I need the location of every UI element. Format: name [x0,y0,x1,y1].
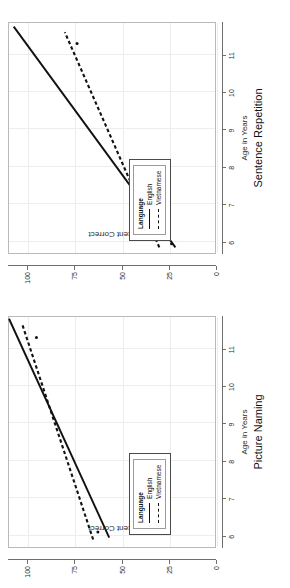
x-tick [222,536,226,537]
legend-key-solid-icon-1 [149,503,150,523]
figure-root: 678910110255075100 Age in Years Percent … [0,0,290,588]
legend-item-english-0: English [146,171,153,229]
series-layer-1 [9,315,217,547]
x-tick [222,461,226,462]
plot-frame-0 [8,22,216,254]
legend-key-dashed-icon-0 [158,209,159,229]
series-line-vietnamese [22,324,93,539]
x-tick-label: 10 [228,383,235,391]
gridline-horizontal [217,317,218,547]
x-tick-label: 6 [228,241,235,245]
legend-label-english-0: English [146,184,153,205]
x-tick [222,242,226,243]
x-tick [222,167,226,168]
x-tick-label: 11 [228,346,235,353]
y-axis-title-0: Percent Correct [13,230,221,239]
y-tick-label: 25 [165,272,172,280]
panel-picture-naming: 678910110255075100 Age in Years Percent … [0,294,290,588]
y-axis-line-1 [8,559,216,560]
y-tick-label: 0 [213,566,220,570]
legend-key-solid-icon-0 [149,209,150,229]
y-tick-label: 100 [23,272,30,284]
x-tick [222,204,226,205]
y-axis-line-0 [8,265,216,266]
y-tick [74,266,75,270]
y-tick [122,266,123,270]
legend-label-vietnamese-1: Vietnamese [155,465,162,499]
y-tick-label: 0 [213,272,220,276]
data-point-marker [170,242,173,245]
x-tick [222,92,226,93]
panel-title-1: Picture Naming [252,316,264,548]
x-tick [222,424,226,425]
series-line-english [9,319,109,538]
y-tick-label: 50 [118,272,125,280]
x-axis-title-1: Age in Years [240,316,249,548]
y-tick [216,560,217,564]
series-layer-0 [9,21,217,253]
x-tick-label: 8 [228,166,235,170]
legend-item-vietnamese-1: Vietnamese [155,465,162,523]
plot-canvas-1: 678910110255075100 Age in Years Percent … [0,294,290,588]
x-tick-label: 7 [228,497,235,501]
legend-inner-0: Language English Vietnamese [133,165,166,235]
y-tick [27,560,28,564]
x-tick [222,55,226,56]
x-tick-label: 6 [228,535,235,539]
x-tick [222,498,226,499]
legend-title-1: Language [137,465,144,523]
legend-item-english-1: English [146,465,153,523]
data-point-marker [35,336,38,339]
x-tick [222,386,226,387]
legend-inner-1: Language English Vietnamese [133,459,166,529]
y-tick-label: 75 [71,272,78,280]
legend-label-vietnamese-0: Vietnamese [155,171,162,205]
legend-label-english-1: English [146,478,153,499]
y-axis-title-1: Percent Correct [13,524,221,533]
gridline-horizontal [217,23,218,253]
legend-1: Language English Vietnamese [129,453,171,535]
x-tick-label: 10 [228,89,235,97]
x-axis-line-0 [222,22,223,254]
y-tick [169,560,170,564]
x-tick-label: 8 [228,460,235,464]
panel-sentence-repetition: 678910110255075100 Age in Years Percent … [0,0,290,294]
x-tick-label: 7 [228,203,235,207]
x-tick-label: 9 [228,423,235,427]
panel-title-0: Sentence Repetition [252,22,264,254]
data-point-marker [76,42,79,45]
x-tick-label: 9 [228,129,235,133]
legend-0: Language English Vietnamese [129,159,171,241]
x-axis-title-0: Age in Years [240,22,249,254]
legend-key-dashed-icon-1 [158,503,159,523]
x-tick [222,349,226,350]
legend-item-vietnamese-0: Vietnamese [155,171,162,229]
y-tick [216,266,217,270]
y-tick-label: 50 [118,566,125,574]
x-tick-label: 11 [228,52,235,59]
x-axis-line-1 [222,316,223,548]
plot-canvas-0: 678910110255075100 Age in Years Percent … [0,0,290,294]
legend-title-0: Language [137,171,144,229]
plot-frame-1 [8,316,216,548]
y-tick-label: 25 [165,566,172,574]
y-tick [169,266,170,270]
y-tick [122,560,123,564]
y-tick [74,560,75,564]
y-tick [27,266,28,270]
x-tick [222,130,226,131]
y-tick-label: 100 [23,566,30,578]
y-tick-label: 75 [71,566,78,574]
